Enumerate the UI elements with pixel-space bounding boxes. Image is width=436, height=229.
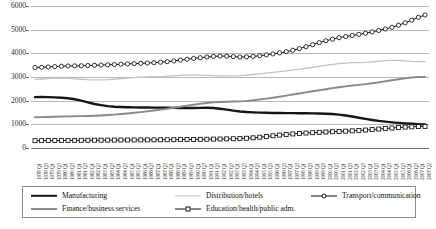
x-tick-label: 1994 Q3 [255, 163, 260, 180]
x-tick-label: 1986 Q3 [149, 163, 154, 180]
x-tick-label: 1979 Q1 [50, 163, 55, 180]
series-marker-4 [172, 138, 176, 142]
x-tick-label: 1981 Q1 [77, 163, 82, 180]
series-line-2 [35, 15, 425, 68]
legend-label: Distribution/hotels [206, 192, 263, 200]
x-tick-label: 1984 Q1 [116, 163, 121, 180]
series-marker-2 [86, 63, 90, 67]
series-marker-4 [271, 134, 275, 138]
series-marker-2 [33, 65, 37, 69]
x-tick-label: 1980 Q1 [63, 163, 68, 180]
series-marker-2 [225, 54, 229, 58]
series-marker-2 [317, 41, 321, 45]
series-marker-4 [416, 125, 420, 129]
x-tick-label: 2004 Q3 [387, 163, 392, 180]
series-marker-2 [284, 50, 288, 54]
x-tick-label: 1985 Q1 [130, 163, 135, 180]
legend-item[interactable]: Finance/business services [31, 203, 140, 215]
x-tick-label: 1980 Q3 [70, 163, 75, 180]
series-marker-2 [370, 30, 374, 34]
series-marker-4 [33, 139, 37, 143]
series-marker-4 [410, 125, 414, 129]
series-marker-2 [40, 65, 44, 69]
y-tick-label-4000: 4000 [11, 49, 26, 57]
series-marker-2 [396, 23, 400, 27]
y-tick-mark [26, 30, 29, 31]
series-marker-4 [278, 133, 282, 137]
series-marker-4 [324, 130, 328, 134]
series-marker-4 [86, 138, 90, 142]
series-marker-4 [139, 138, 143, 142]
legend-label: Education/health/public adm. [206, 205, 295, 213]
series-marker-2 [106, 63, 110, 67]
x-tick-label: 2007 Q1 [420, 163, 425, 180]
series-marker-4 [291, 132, 295, 136]
x-tick-label: 2006 Q1 [407, 163, 412, 180]
x-tick-label: 1990 Q3 [202, 163, 207, 180]
series-marker-2 [311, 43, 315, 47]
series-marker-4 [397, 126, 401, 130]
series-marker-4 [99, 138, 103, 142]
series-marker-4 [311, 131, 315, 135]
series-marker-4 [225, 137, 229, 141]
series-marker-4 [297, 131, 301, 135]
y-tick-label-1000: 1000 [11, 120, 26, 128]
series-marker-4 [112, 138, 116, 142]
x-axis: 1978 Q11978 Q31979 Q11979 Q31980 Q11980 … [31, 149, 429, 181]
y-tick-mark [26, 148, 29, 149]
legend-item[interactable]: Manufacturing [31, 190, 107, 202]
series-marker-2 [324, 39, 328, 43]
series-marker-4 [126, 138, 130, 142]
x-tick-label: 1987 Q1 [156, 163, 161, 180]
x-tick-label: 2002 Q3 [361, 163, 366, 180]
x-tick-label: 2003 Q3 [374, 163, 379, 180]
series-marker-2 [416, 15, 420, 19]
legend-item[interactable]: Transport/communication [311, 190, 421, 202]
legend-item[interactable]: Distribution/hotels [175, 190, 263, 202]
series-marker-2 [99, 63, 103, 67]
series-marker-2 [297, 47, 301, 51]
series-marker-4 [73, 138, 77, 142]
series-marker-4 [46, 139, 50, 143]
series-marker-2 [145, 61, 149, 65]
series-marker-4 [258, 135, 262, 139]
series-marker-4 [245, 136, 249, 140]
series-marker-2 [165, 60, 169, 64]
x-tick-label: 1981 Q3 [83, 163, 88, 180]
x-tick-label: 1987 Q3 [163, 163, 168, 180]
series-marker-4 [218, 137, 222, 141]
legend-item[interactable]: Education/health/public adm. [175, 203, 295, 215]
series-marker-2 [271, 52, 275, 56]
x-tick-label: 1994 Q1 [249, 163, 254, 180]
x-tick-label: 1988 Q1 [169, 163, 174, 180]
series-marker-4 [59, 138, 63, 142]
series-marker-2 [92, 63, 96, 67]
x-tick-label: 2003 Q1 [368, 163, 373, 180]
chart-figure: 0100020003000400050006000 1978 Q11978 Q3… [0, 0, 436, 229]
series-marker-2 [119, 62, 123, 66]
legend-row-1: ManufacturingDistribution/hotelsTranspor… [23, 190, 415, 202]
x-tick-label: 1989 Q3 [189, 163, 194, 180]
legend-swatch-icon [175, 204, 201, 214]
legend-label: Manufacturing [62, 192, 107, 200]
series-marker-2 [192, 56, 196, 60]
series-marker-4 [185, 138, 189, 142]
y-tick-label-2000: 2000 [11, 97, 26, 105]
legend-swatch-icon [31, 191, 57, 201]
series-marker-2 [350, 33, 354, 37]
series-marker-4 [192, 137, 196, 141]
series-marker-4 [357, 128, 361, 132]
series-marker-2 [205, 55, 209, 59]
series-marker-4 [211, 137, 215, 141]
series-marker-4 [53, 139, 57, 143]
x-tick-label: 1997 Q1 [288, 163, 293, 180]
x-tick-label: 1993 Q1 [235, 163, 240, 180]
series-marker-4 [350, 129, 354, 133]
chart-legend: ManufacturingDistribution/hotelsTranspor… [22, 186, 416, 218]
x-tick-label: 2007 Q2 [427, 163, 432, 180]
x-tick-label: 1978 Q1 [37, 163, 42, 180]
series-marker-4 [165, 138, 169, 142]
x-tick-label: 1984 Q3 [123, 163, 128, 180]
series-marker-4 [317, 130, 321, 134]
series-marker-2 [291, 48, 295, 52]
